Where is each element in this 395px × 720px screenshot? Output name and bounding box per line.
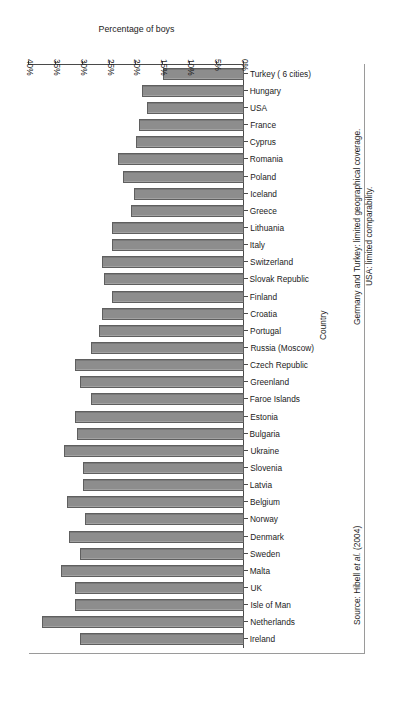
category-tick <box>244 518 248 519</box>
bar <box>131 205 244 217</box>
bar-row: Ukraine <box>29 442 244 459</box>
bar <box>137 136 245 148</box>
category-label: Italy <box>250 241 265 250</box>
category-label: Greece <box>250 206 277 215</box>
category-tick <box>244 159 248 160</box>
bar-row: Isle of Man <box>29 597 244 614</box>
category-label: Iceland <box>250 189 277 198</box>
category-label: Ukraine <box>250 446 279 455</box>
bar <box>80 548 244 560</box>
bar <box>91 393 244 405</box>
bar-row: Hungary <box>29 82 244 99</box>
category-label: Lithuania <box>250 224 284 233</box>
category-label: Croatia <box>250 309 277 318</box>
category-tick <box>244 570 248 571</box>
value-tick-label: 0% <box>240 59 249 71</box>
category-tick <box>244 638 248 639</box>
bar-row: Malta <box>29 562 244 579</box>
category-tick <box>244 467 248 468</box>
bar-row: Latvia <box>29 477 244 494</box>
category-tick <box>244 484 248 485</box>
value-tick-label: 40% <box>25 59 34 76</box>
bar-row: Italy <box>29 237 244 254</box>
category-label: Denmark <box>250 532 284 541</box>
bar <box>61 565 244 577</box>
category-label: Latvia <box>250 481 272 490</box>
x-axis-title: Percentage of boys <box>29 24 244 34</box>
category-tick <box>244 347 248 348</box>
bar-row: UK <box>29 579 244 596</box>
category-tick <box>244 90 248 91</box>
bar <box>64 445 244 457</box>
category-label: Romania <box>250 155 283 164</box>
bar-row: Portugal <box>29 322 244 339</box>
category-label: Cyprus <box>250 138 276 147</box>
category-tick <box>244 296 248 297</box>
bar <box>102 256 244 268</box>
bar-row: Lithuania <box>29 219 244 236</box>
bar-row: Finland <box>29 288 244 305</box>
bar-row: Romania <box>29 151 244 168</box>
bar-row: Slovenia <box>29 459 244 476</box>
category-label: Sweden <box>250 549 280 558</box>
plot-left-rule <box>364 64 365 654</box>
bar <box>139 119 244 131</box>
category-label: USA <box>250 104 267 113</box>
bar <box>104 273 244 285</box>
source-prefix: Source: Hibell <box>352 571 362 625</box>
note-comparability: USA: limited comparability. <box>364 187 374 286</box>
category-label: Malta <box>250 566 270 575</box>
category-label: Estonia <box>250 412 278 421</box>
category-tick <box>244 621 248 622</box>
bar-row: Greece <box>29 202 244 219</box>
category-tick <box>244 330 248 331</box>
bar-chart-figure: IrelandNetherlandsIsle of ManUKMaltaSwed… <box>0 0 395 720</box>
category-label: Bulgaria <box>250 429 280 438</box>
bar <box>67 496 244 508</box>
category-tick <box>244 227 248 228</box>
category-tick <box>244 364 248 365</box>
bar <box>83 462 244 474</box>
value-tick-label: 35% <box>51 59 60 76</box>
bar <box>85 513 244 525</box>
category-tick <box>244 313 248 314</box>
category-label: Russia (Moscow) <box>250 344 314 353</box>
bar-row: Slovak Republic <box>29 271 244 288</box>
bar-row: Cyprus <box>29 134 244 151</box>
value-tick-label: 25% <box>105 59 114 76</box>
category-label: Switzerland <box>250 258 293 267</box>
bar-row: Russia (Moscow) <box>29 339 244 356</box>
bar <box>118 154 244 166</box>
bar-row: Iceland <box>29 185 244 202</box>
y-axis-title: Country <box>318 311 328 340</box>
bar <box>69 531 244 543</box>
category-tick <box>244 176 248 177</box>
category-tick <box>244 450 248 451</box>
bar <box>112 291 244 303</box>
bar <box>83 479 244 491</box>
category-label: France <box>250 121 276 130</box>
bar-row: USA <box>29 100 244 117</box>
category-label: Portugal <box>250 326 281 335</box>
bar-row: Croatia <box>29 305 244 322</box>
category-tick <box>244 536 248 537</box>
bar <box>77 428 244 440</box>
bar <box>123 171 244 183</box>
bar <box>75 599 244 611</box>
category-label: Isle of Man <box>250 601 291 610</box>
bar-row: Denmark <box>29 528 244 545</box>
category-tick <box>244 107 248 108</box>
category-label: Slovak Republic <box>250 275 310 284</box>
bar-row: Belgium <box>29 494 244 511</box>
category-label: Norway <box>250 515 278 524</box>
value-tick-label: 5% <box>213 59 222 71</box>
bar-row: Greenland <box>29 374 244 391</box>
bar-row: Czech Republic <box>29 357 244 374</box>
plot-top-rule <box>29 653 365 654</box>
bar <box>147 102 244 114</box>
source-suffix: (2004) <box>352 526 362 553</box>
bar-row: Sweden <box>29 545 244 562</box>
bar <box>163 68 244 80</box>
bar <box>102 308 244 320</box>
category-tick <box>244 141 248 142</box>
